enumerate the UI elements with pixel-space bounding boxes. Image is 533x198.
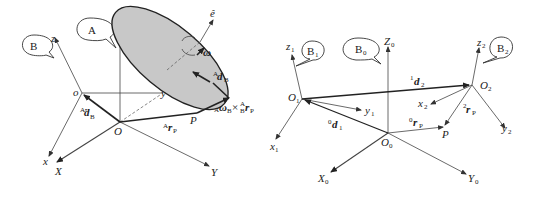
svg-text:2: 2 <box>505 48 509 56</box>
right-diagram: B 1 B 0 B 2 Z 0 X 0 Y 0 O 0 <box>269 35 513 186</box>
axis-x <box>49 93 82 156</box>
label-cross-term: A ω B × A B r P <box>214 100 254 115</box>
svg-text:2: 2 <box>488 85 492 93</box>
svg-text:2: 2 <box>482 42 486 50</box>
svg-text:O: O <box>381 136 389 148</box>
svg-text:B: B <box>497 42 504 54</box>
svg-text:y: y <box>364 104 370 116</box>
bubble-B: B <box>22 35 54 58</box>
label-0-d1: 0 d 1 <box>328 118 343 132</box>
label-0-rP: 0 r P <box>409 116 423 130</box>
rotation-axis-e <box>200 20 213 42</box>
svg-text:0: 0 <box>325 178 329 186</box>
label-P-right: P <box>441 128 449 140</box>
axis-z2 <box>472 48 479 85</box>
label-o: o <box>73 86 79 98</box>
svg-text:O: O <box>288 91 296 103</box>
label-O0: O 0 <box>381 136 393 150</box>
svg-text:B: B <box>90 113 95 121</box>
vector-r-P <box>120 113 197 122</box>
label-O: O <box>114 125 122 137</box>
svg-text:1: 1 <box>275 146 279 154</box>
svg-text:d: d <box>414 75 420 87</box>
svg-text:r: r <box>413 116 418 128</box>
svg-text:P: P <box>250 107 254 115</box>
axis-X0 <box>331 133 388 172</box>
svg-text:0: 0 <box>391 41 395 49</box>
label-x1: x 1 <box>269 140 279 154</box>
svg-text:B: B <box>355 43 362 55</box>
kinematics-figure: B A Z X Y O z x y o ê ω <box>0 0 533 198</box>
svg-text:d: d <box>332 118 338 130</box>
vector-1-d2 <box>302 85 469 99</box>
svg-text:P: P <box>419 122 423 130</box>
label-omega: ω <box>203 46 211 58</box>
label-P: P <box>189 114 197 126</box>
label-x2: x 2 <box>417 97 428 111</box>
label-X: X <box>54 165 63 177</box>
label-Y0: Y 0 <box>468 172 479 186</box>
label-e-hat: ê <box>210 7 215 19</box>
svg-text:ω: ω <box>219 101 227 113</box>
label-Z0: Z 0 <box>384 35 395 49</box>
axis-Y0 <box>388 133 466 174</box>
label-O1: O 1 <box>288 91 300 105</box>
bubble-B2: B 2 <box>483 37 513 63</box>
svg-text:O: O <box>480 79 488 91</box>
svg-text:1: 1 <box>371 110 375 118</box>
svg-text:2: 2 <box>508 128 512 136</box>
label-Y: Y <box>211 166 219 178</box>
svg-text:0: 0 <box>389 142 393 150</box>
label-y1: y 1 <box>364 104 375 118</box>
label-2-rP: 2 r P <box>463 102 476 117</box>
label-B: B <box>30 40 37 52</box>
axis-y1 <box>302 99 361 110</box>
label-r-P: A r P <box>163 121 177 135</box>
svg-text:1: 1 <box>291 46 295 54</box>
axis-z <box>55 38 82 93</box>
svg-text:P: P <box>173 127 177 135</box>
svg-text:1: 1 <box>339 124 343 132</box>
svg-text:x: x <box>417 97 423 109</box>
label-A: A <box>88 24 96 36</box>
svg-text:P: P <box>472 109 476 117</box>
label-1-d2: 1 d 2 <box>410 74 425 89</box>
svg-text:y: y <box>501 122 507 134</box>
bubble-B1: B 1 <box>296 41 324 66</box>
svg-text:B: B <box>224 76 229 84</box>
svg-text:1: 1 <box>315 51 319 59</box>
svg-text:0: 0 <box>475 178 479 186</box>
svg-text:×: × <box>232 101 238 113</box>
label-z: z <box>50 32 56 44</box>
label-d-dot-B: A ḋ B <box>80 106 95 121</box>
diagram-canvas: B A Z X Y O z x y o ê ω <box>0 0 533 198</box>
svg-text:0: 0 <box>363 49 367 57</box>
vector-0-d1 <box>305 100 388 133</box>
label-z1: z 1 <box>285 40 295 54</box>
label-O2: O 2 <box>480 79 492 93</box>
bubble-A: A <box>77 18 116 48</box>
axis-X <box>57 122 120 162</box>
label-y2: y 2 <box>501 122 512 136</box>
label-X0: X 0 <box>317 172 329 186</box>
svg-text:B: B <box>307 45 314 57</box>
svg-text:2: 2 <box>421 81 425 89</box>
axis-x1 <box>276 99 302 139</box>
label-z2: z 2 <box>476 36 486 50</box>
left-diagram: B A Z X Y O z x y o ê ω <box>22 0 254 178</box>
svg-text:2: 2 <box>424 103 428 111</box>
svg-text:r: r <box>466 103 471 115</box>
bubble-B0: B 0 <box>343 38 381 64</box>
label-x: x <box>42 155 48 167</box>
svg-text:Z: Z <box>384 35 391 47</box>
svg-text:1: 1 <box>296 97 300 105</box>
svg-text:d: d <box>217 70 223 82</box>
